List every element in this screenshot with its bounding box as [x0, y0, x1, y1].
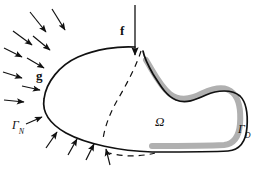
dirichlet-boundary-label: ΓD [238, 123, 251, 138]
traction-arrow [68, 139, 77, 155]
neumann-subscript: N [19, 127, 24, 136]
traction-arrow [52, 9, 65, 30]
domain-diagram-svg [0, 0, 266, 174]
domain-omega-label: Ω [155, 115, 164, 128]
traction-arrow [27, 58, 44, 68]
traction-arrow [106, 149, 110, 165]
traction-arrow [26, 117, 42, 124]
traction-arrow [4, 48, 22, 57]
hidden-crease-dashed [103, 51, 141, 139]
surface-traction-label: g [36, 69, 43, 82]
traction-arrow [30, 12, 46, 32]
figure-canvas: f g Ω ΓN ΓD [0, 0, 266, 174]
dirichlet-gamma-glyph: Γ [238, 122, 245, 136]
dirichlet-subscript: D [245, 131, 251, 140]
traction-arrow [46, 132, 57, 148]
traction-arrow [13, 31, 32, 45]
traction-arrow [33, 36, 50, 50]
neumann-gamma-glyph: Γ [12, 118, 19, 132]
traction-arrow-group [3, 9, 110, 165]
traction-arrow [4, 100, 24, 102]
traction-arrow [22, 86, 40, 90]
dirichlet-boundary-band [146, 60, 240, 146]
neumann-boundary-label: ΓN [12, 119, 24, 134]
applied-load-label: f [120, 24, 124, 37]
traction-arrow [3, 72, 22, 78]
traction-arrow [86, 144, 94, 160]
